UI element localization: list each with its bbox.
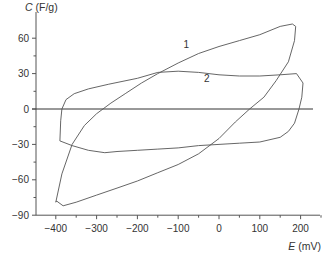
chart-canvas: 60300−30−60−90−400−300−200−1000100200C (… — [0, 0, 330, 262]
y-tick-label: 60 — [18, 33, 30, 44]
y-tick-label: −60 — [12, 174, 29, 185]
x-tick-label: −300 — [85, 223, 108, 234]
y-axis-title: C (F/g) — [25, 1, 58, 13]
cv-chart: 60300−30−60−90−400−300−200−1000100200C (… — [0, 0, 330, 262]
x-tick-label: 100 — [251, 223, 268, 234]
y-tick-label: −90 — [12, 210, 29, 221]
x-axis-title: E (mV) — [288, 240, 321, 252]
x-tick-label: 0 — [216, 223, 222, 234]
x-tick-label: 200 — [292, 223, 309, 234]
axes: 60300−30−60−90−400−300−200−1000100200C (… — [12, 1, 321, 252]
x-tick-label: −400 — [45, 223, 68, 234]
series-group — [56, 24, 303, 206]
x-tick-label: −100 — [167, 223, 190, 234]
curve-label-2: 2 — [204, 73, 210, 84]
y-tick-label: −30 — [12, 139, 29, 150]
y-tick-label: 0 — [23, 104, 29, 115]
x-tick-label: −200 — [126, 223, 149, 234]
y-tick-label: 30 — [18, 68, 30, 79]
labels-group: 12 — [184, 39, 210, 84]
curve-2 — [60, 71, 303, 153]
curve-label-1: 1 — [184, 39, 190, 50]
curve-1 — [56, 24, 296, 206]
